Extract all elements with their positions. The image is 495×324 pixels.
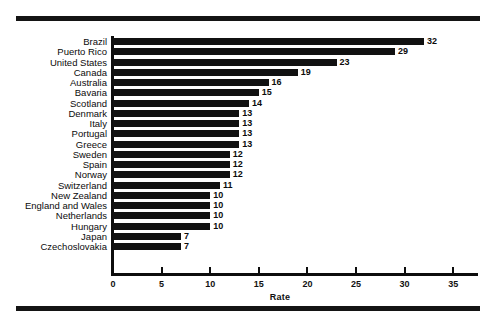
x-axis-line	[111, 273, 478, 276]
top-divider-rule	[16, 16, 480, 21]
bar	[113, 233, 181, 240]
bar-value-label: 29	[398, 46, 408, 57]
bar	[113, 212, 210, 219]
bar-value-label: 11	[223, 180, 233, 191]
bar-value-label: 19	[301, 67, 311, 78]
x-axis-tick	[209, 267, 211, 274]
bar-value-label: 13	[242, 139, 252, 150]
bar-value-label: 7	[184, 241, 189, 252]
plot-area: 05101520253035 Brazil32Puerto Rico29Unit…	[0, 34, 495, 279]
category-label: Czechoslovakia	[40, 241, 107, 252]
x-axis-tick	[258, 267, 260, 274]
bar	[113, 192, 210, 199]
x-axis-tick	[452, 267, 454, 274]
x-axis-tick	[355, 267, 357, 274]
bottom-divider-rule	[16, 306, 480, 311]
x-axis-tick-label: 35	[438, 279, 468, 290]
x-axis-tick-label: 20	[292, 279, 322, 290]
bar	[113, 100, 249, 107]
bar	[113, 182, 220, 189]
x-axis-tick-label: 5	[147, 279, 177, 290]
x-axis-tick-label: 10	[195, 279, 225, 290]
bar	[113, 38, 424, 45]
x-axis-tick	[161, 267, 163, 274]
bar	[113, 202, 210, 209]
bar-row: Sweden12	[0, 150, 495, 160]
bar	[113, 59, 337, 66]
bar-value-label: 10	[213, 221, 223, 232]
x-axis-tick-label: 0	[98, 279, 128, 290]
x-axis-tick	[112, 267, 114, 274]
bar	[113, 151, 230, 158]
bar	[113, 120, 239, 127]
x-axis-tick	[404, 267, 406, 274]
bar-value-label: 32	[427, 36, 437, 47]
bar-row: Czechoslovakia7	[0, 242, 495, 252]
bar	[113, 141, 239, 148]
bar-chart-figure: 05101520253035 Brazil32Puerto Rico29Unit…	[0, 0, 495, 324]
bar	[113, 79, 269, 86]
bar	[113, 243, 181, 250]
x-axis-title: Rate	[0, 292, 495, 302]
bar	[113, 223, 210, 230]
x-axis-tick-label: 30	[390, 279, 420, 290]
bar-value-label: 16	[272, 77, 282, 88]
bar	[113, 171, 230, 178]
bar-value-label: 12	[233, 169, 243, 180]
x-axis-tick	[306, 267, 308, 274]
bar-value-label: 14	[252, 98, 262, 109]
bar	[113, 69, 298, 76]
bar-row: Hungary10	[0, 222, 495, 232]
bar	[113, 89, 259, 96]
bar-value-label: 23	[340, 57, 350, 68]
x-axis-tick-label: 25	[341, 279, 371, 290]
bar	[113, 110, 239, 117]
bar	[113, 48, 395, 55]
bar	[113, 130, 239, 137]
bar	[113, 161, 230, 168]
x-axis-tick-label: 15	[244, 279, 274, 290]
bar-value-label: 15	[262, 87, 272, 98]
